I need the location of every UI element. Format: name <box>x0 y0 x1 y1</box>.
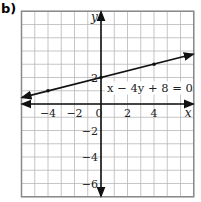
y-axis-label: y <box>90 10 98 24</box>
y-tick-label: −6 <box>82 178 98 191</box>
x-tick-label: −4 <box>40 107 56 120</box>
x-tick-label: 4 <box>151 107 158 120</box>
x-tick-label: 2 <box>124 107 131 120</box>
y-tick-labels: 2−2−4−6 <box>82 72 98 191</box>
x-tick-label: 0 <box>96 107 103 120</box>
point-marker <box>152 62 156 66</box>
x-axis-label: x <box>185 106 192 120</box>
coordinate-plane: x y −4−2024 2−2−4−6 x − 4y + 8 = 0 <box>0 0 201 202</box>
point-marker <box>99 76 103 80</box>
x-tick-label: −2 <box>66 107 82 120</box>
point-marker <box>46 89 50 93</box>
x-tick-labels: −4−2024 <box>40 107 158 120</box>
y-tick-label: −2 <box>82 125 98 138</box>
y-tick-label: −4 <box>82 151 98 164</box>
equation-label: x − 4y + 8 = 0 <box>107 81 193 95</box>
